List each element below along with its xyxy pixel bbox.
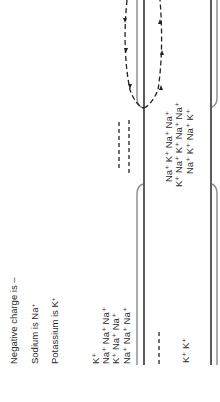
left-membrane-outer-top xyxy=(137,0,143,108)
right-membrane-outer-bottom xyxy=(212,184,217,365)
arrow-up-icon xyxy=(160,50,164,55)
arrow-down-icon xyxy=(128,84,132,89)
ion-row: K⁺ Na⁺ Na⁺ xyxy=(111,313,121,364)
legend-negative: Negative charge is – xyxy=(9,277,19,364)
ion-row: K⁺ Na⁺ K⁺ Na⁺ Na⁺ xyxy=(174,102,184,187)
ion-row: Na⁺ Na⁺ Na⁺ xyxy=(122,307,132,364)
legend-sodium: Sodium is Na+ xyxy=(30,304,40,364)
arrow-down-icon xyxy=(123,18,127,23)
ion-row: K⁺ K⁺ xyxy=(181,338,191,363)
right-membrane-outer-top xyxy=(212,0,217,107)
arrow-down-icon xyxy=(124,48,128,53)
axon-diagram: Negative charge is – Sodium is Na+ Potas… xyxy=(0,0,220,402)
ion-row: Na⁺ K⁺ Na⁺ K⁺ xyxy=(185,109,195,174)
legend-potassium: Potassium is K+ xyxy=(50,298,60,364)
arrow-up-icon xyxy=(159,85,163,90)
left-membrane-outer-bottom xyxy=(137,184,143,365)
